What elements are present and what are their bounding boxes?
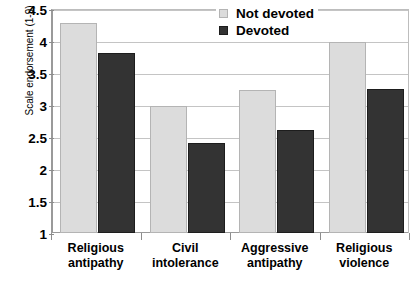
plot-area: 11.522.533.544.5 — [51, 9, 409, 233]
legend: Not devoted Devoted — [216, 3, 318, 42]
legend-item-devoted[interactable]: Devoted — [219, 22, 314, 39]
x-axis-tick — [141, 233, 142, 240]
bar-devoted — [367, 89, 404, 233]
y-tick-label: 1 — [39, 227, 47, 242]
bar-devoted — [277, 130, 314, 233]
y-tick-mark — [49, 138, 54, 139]
y-tick-mark — [49, 10, 54, 11]
legend-swatch-icon-not-devoted — [219, 9, 228, 18]
x-category-label-line: violence — [320, 256, 410, 271]
x-category-label: Religiousantipathy — [51, 241, 141, 270]
y-tick-label: 4.5 — [28, 3, 47, 18]
y-tick-label: 4 — [39, 35, 47, 50]
x-category-label: Civilintolerance — [141, 241, 231, 270]
x-category-label-line: intolerance — [141, 256, 231, 271]
bar-devoted — [98, 53, 135, 233]
bar-not-devoted — [239, 90, 276, 233]
x-category-label-line: Civil — [141, 241, 231, 256]
y-tick-label: 3.5 — [28, 67, 47, 82]
y-tick-mark — [49, 74, 54, 75]
x-axis-tick — [51, 233, 52, 240]
x-axis-tick — [230, 233, 231, 240]
y-tick-mark — [49, 170, 54, 171]
legend-item-not-devoted[interactable]: Not devoted — [219, 5, 314, 22]
y-tick-mark — [49, 106, 54, 107]
x-category-label-line: Religious — [320, 241, 410, 256]
y-tick-label: 3 — [39, 99, 47, 114]
y-tick-label: 1.5 — [28, 195, 47, 210]
bar-not-devoted — [150, 106, 187, 233]
y-tick-mark — [49, 202, 54, 203]
bar-devoted — [188, 143, 225, 233]
y-tick-mark — [49, 42, 54, 43]
bar-not-devoted — [329, 42, 366, 233]
legend-swatch-icon-devoted — [219, 26, 228, 35]
x-category-label-line: antipathy — [51, 256, 141, 271]
bar-chart: Scale endorsement (1-9) 11.522.533.544.5… — [0, 0, 416, 291]
y-tick-label: 2 — [39, 163, 47, 178]
x-axis-tick — [320, 233, 321, 240]
x-category-label: Aggressiveantipathy — [230, 241, 320, 270]
y-tick-label: 2.5 — [28, 131, 47, 146]
x-category-label: Religiousviolence — [320, 241, 410, 270]
x-category-label-line: Religious — [51, 241, 141, 256]
legend-label-not-devoted: Not devoted — [236, 6, 314, 21]
x-category-label-line: antipathy — [230, 256, 320, 271]
x-axis-tick — [409, 233, 410, 240]
x-category-label-line: Aggressive — [230, 241, 320, 256]
legend-label-devoted: Devoted — [236, 23, 289, 38]
bar-not-devoted — [60, 23, 97, 233]
